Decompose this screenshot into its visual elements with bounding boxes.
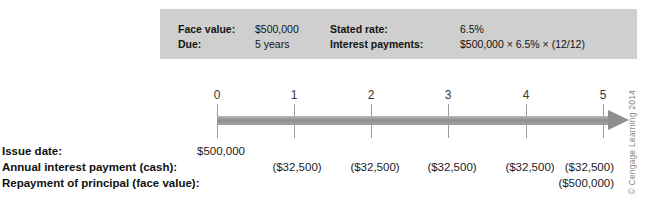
- bond-summary-grid: Face value: $500,000 Due: 5 years Stated…: [160, 9, 637, 59]
- principal-repayment-year-5: ($500,000): [544, 177, 614, 189]
- interest-payment-year-1: ($32,500): [272, 161, 321, 173]
- copyright-credit: © Cengage Learning 2014: [627, 90, 637, 194]
- timeline-arrow-head-icon: [608, 110, 629, 130]
- bond-summary-panel: Face value: $500,000 Due: 5 years Stated…: [160, 9, 637, 59]
- timeline-tick-label-2: 2: [368, 88, 375, 102]
- timeline-tick-label-3: 3: [445, 88, 452, 102]
- face-value-value: $500,000: [255, 23, 299, 36]
- timeline-arrow-shaft: [217, 116, 611, 125]
- interest-payments-value: $500,000 × 6.5% × (12/12): [460, 38, 585, 51]
- interest-payment-year-2: ($32,500): [350, 161, 399, 173]
- repayment-of-principal-row-label: Repayment of principal (face value):: [2, 177, 199, 189]
- timeline-tick-label-4: 4: [523, 88, 530, 102]
- timeline-tick-label-1: 1: [291, 88, 298, 102]
- timeline-axis: 0 1 2 3 4 5: [0, 80, 651, 145]
- stated-rate-label: Stated rate:: [330, 23, 388, 36]
- stated-rate-value: 6.5%: [460, 23, 484, 36]
- issue-date-row-label: Issue date:: [2, 145, 62, 157]
- interest-payment-year-3: ($32,500): [427, 161, 476, 173]
- timeline-tick-label-0: 0: [214, 88, 221, 102]
- face-value-label: Face value:: [178, 23, 235, 36]
- annual-interest-payment-row-label: Annual interest payment (cash):: [2, 161, 177, 173]
- due-value: 5 years: [255, 38, 289, 51]
- interest-payment-year-5: ($32,500): [544, 161, 614, 173]
- interest-payments-label: Interest payments:: [330, 38, 423, 51]
- issue-date-amount-year-0: $500,000: [197, 145, 245, 157]
- timeline-tick-label-5: 5: [600, 88, 607, 102]
- due-label: Due:: [178, 38, 201, 51]
